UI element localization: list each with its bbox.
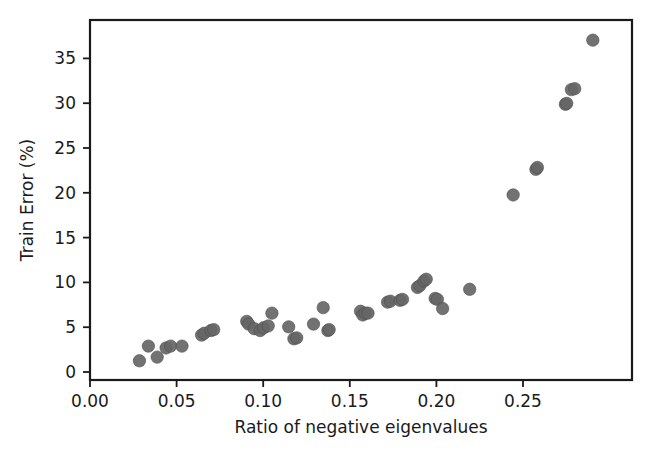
y-tick-6: 30 — [54, 93, 90, 113]
chart-canvas: 0 5 10 15 20 25 — [0, 0, 661, 451]
scatter-point — [283, 321, 295, 333]
x-tick-2: 0.10 — [244, 380, 282, 411]
x-tick-label: 0.25 — [504, 391, 542, 411]
y-tick-label: 25 — [54, 138, 76, 158]
scatter-chart-figure: 0 5 10 15 20 25 — [0, 0, 661, 451]
x-tick-label: 0.05 — [158, 391, 196, 411]
scatter-point — [208, 323, 220, 335]
scatter-point — [396, 293, 408, 305]
scatter-point — [307, 318, 319, 330]
y-tick-7: 35 — [54, 48, 90, 68]
x-axis-title: Ratio of negative eigenvalues — [234, 417, 487, 437]
scatter-point — [569, 83, 581, 95]
scatter-point — [317, 301, 329, 313]
y-tick-label: 20 — [54, 183, 76, 203]
scatter-point — [507, 189, 519, 201]
scatter-point — [587, 34, 599, 46]
x-tick-5: 0.25 — [504, 380, 542, 411]
scatter-point — [151, 351, 163, 363]
x-tick-label: 0.20 — [417, 391, 455, 411]
x-tick-1: 0.05 — [158, 380, 196, 411]
y-tick-label: 10 — [54, 272, 76, 292]
y-tick-4: 20 — [54, 183, 90, 203]
y-tick-label: 15 — [54, 228, 76, 248]
scatter-point — [531, 161, 543, 173]
x-tick-3: 0.15 — [331, 380, 369, 411]
scatter-point — [164, 340, 176, 352]
y-tick-3: 15 — [54, 228, 90, 248]
x-tick-4: 0.20 — [417, 380, 455, 411]
scatter-point — [420, 273, 432, 285]
y-tick-2: 10 — [54, 272, 90, 292]
x-axis: 0.00 0.05 0.10 0.15 0.20 0.25 — [71, 380, 542, 411]
y-axis: 0 5 10 15 20 25 — [54, 48, 90, 382]
scatter-point — [266, 307, 278, 319]
y-tick-label: 30 — [54, 93, 76, 113]
scatter-point — [463, 283, 475, 295]
scatter-point — [262, 320, 274, 332]
y-tick-1: 5 — [65, 317, 90, 337]
x-tick-label: 0.15 — [331, 391, 369, 411]
x-tick-label: 0.00 — [71, 391, 109, 411]
scatter-point — [436, 302, 448, 314]
plot-frame — [90, 20, 632, 380]
x-tick-label: 0.10 — [244, 391, 282, 411]
y-tick-label: 0 — [65, 362, 76, 382]
scatter-point — [291, 332, 303, 344]
scatter-point — [362, 307, 374, 319]
y-tick-label: 35 — [54, 48, 76, 68]
y-axis-title: Train Error (%) — [17, 139, 37, 262]
scatter-point — [133, 355, 145, 367]
y-tick-5: 25 — [54, 138, 90, 158]
scatter-point — [176, 340, 188, 352]
scatter-markers — [133, 34, 599, 367]
scatter-point — [561, 97, 573, 109]
y-tick-label: 5 — [65, 317, 76, 337]
x-tick-0: 0.00 — [71, 380, 109, 411]
scatter-point — [323, 323, 335, 335]
scatter-point — [142, 340, 154, 352]
y-tick-0: 0 — [65, 362, 90, 382]
